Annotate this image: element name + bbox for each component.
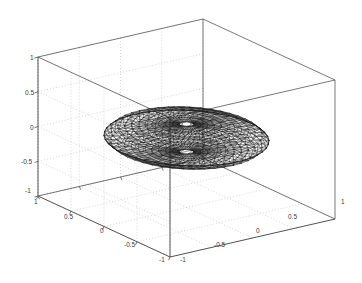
grid-lines [38, 19, 335, 257]
plot-svg: 10.50-0.5-110.50-0.5-1-1-0.500.51 [0, 0, 362, 283]
x-axis-tick-label: -0.5 [214, 241, 226, 248]
figure-canvas: 10.50-0.5-110.50-0.5-1-1-0.500.51 [0, 0, 362, 283]
axes-box [38, 19, 335, 257]
tick-marks [35, 57, 205, 260]
z-axis-tick-label: 0.5 [25, 89, 34, 96]
y-axis-tick-label: 0.5 [64, 213, 73, 220]
y-axis-tick-label: -1 [159, 256, 165, 263]
z-axis-tick-label: -0.5 [21, 158, 33, 165]
z-axis-tick-label: -1 [25, 187, 31, 194]
z-axis-tick-label: 0 [30, 124, 34, 131]
mesh-center-hole [182, 122, 191, 126]
y-axis-tick-label: -0.5 [124, 241, 136, 248]
x-axis-tick-label: 1 [341, 198, 345, 205]
y-axis-tick-label: 1 [34, 198, 38, 205]
y-axis-tick-label: 0 [100, 227, 104, 234]
x-axis-tick-label: -1 [180, 256, 186, 263]
mesh-wireframe [104, 107, 269, 169]
x-axis-tick-label: 0 [256, 227, 260, 234]
x-axis-tick-label: 0.5 [288, 213, 297, 220]
z-axis-tick-label: 1 [30, 54, 34, 61]
